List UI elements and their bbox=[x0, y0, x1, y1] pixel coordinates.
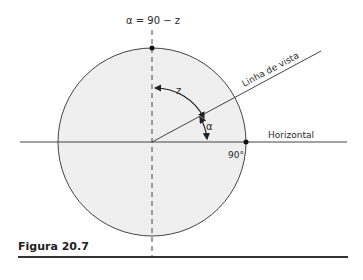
celestial-sphere-diagram: α = 90 − z z α 90° Horizontal Linha de v… bbox=[0, 0, 363, 280]
angle-z-label: z bbox=[176, 85, 181, 96]
angle-alpha-label: α bbox=[206, 121, 213, 132]
zenith-point bbox=[150, 46, 155, 51]
caption-rule bbox=[18, 256, 348, 258]
line-of-sight-label: Linha de vista bbox=[240, 50, 300, 88]
right-angle-label: 90° bbox=[228, 150, 244, 160]
horizontal-label: Horizontal bbox=[268, 130, 314, 140]
figure-caption: Figura 20.7 bbox=[18, 240, 89, 253]
formula-label: α = 90 − z bbox=[126, 15, 180, 26]
horizon-point bbox=[244, 140, 249, 145]
